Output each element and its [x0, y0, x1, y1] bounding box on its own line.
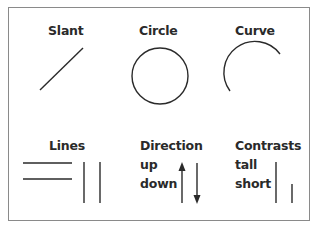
- contrasts-label: Contrasts: [235, 139, 301, 153]
- circle-label: Circle: [139, 24, 178, 38]
- lines-shape: [23, 162, 100, 203]
- slant-label: Slant: [48, 24, 84, 38]
- direction-label: Direction: [140, 139, 203, 153]
- slant-line: [40, 48, 83, 90]
- curve-arc: [224, 41, 280, 91]
- up-label: up: [140, 158, 157, 172]
- tall-label: tall: [235, 158, 257, 172]
- down-arrowhead-icon: [194, 195, 201, 204]
- down-label: down: [140, 177, 177, 191]
- up-arrowhead-icon: [179, 162, 186, 171]
- lines-label: Lines: [49, 139, 85, 153]
- curve-label: Curve: [235, 24, 275, 38]
- contrast-lines: [276, 162, 292, 203]
- circle-shape: [132, 48, 188, 104]
- short-label: short: [235, 177, 271, 191]
